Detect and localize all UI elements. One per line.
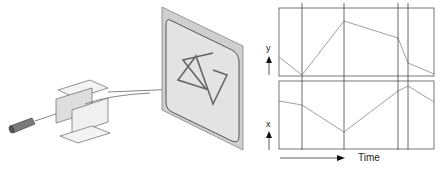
screen <box>162 7 243 150</box>
y-axis-label: y <box>266 44 271 53</box>
bottom-plate <box>60 126 110 143</box>
x-axis-label: x <box>266 120 271 129</box>
crt-deflection-diagram <box>0 0 441 169</box>
electron-gun <box>8 118 35 134</box>
y-axis-arrow <box>266 56 272 75</box>
time-label: Time <box>358 153 380 163</box>
time-markers <box>302 3 408 150</box>
time-arrow <box>280 155 345 161</box>
x-axis-arrow <box>266 131 272 150</box>
